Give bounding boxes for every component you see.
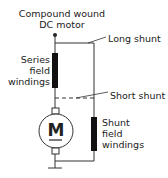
motor-symbol: M [47,121,65,139]
long-shunt-leader [88,37,106,43]
series-label-line-3: windings [8,76,50,87]
title-line-1: Compound wound [14,8,110,19]
shunt-label-line-1: Shunt [102,117,144,128]
long-shunt-label: Long shunt [108,33,161,44]
series-label-line-2: field [8,65,50,76]
shunt-label-line-2: field [102,128,144,139]
shunt-winding-label: Shunt field windings [102,117,144,150]
diagram-title: Compound wound DC motor [14,8,110,30]
series-winding-label: Series field windings [8,54,50,87]
short-shunt-label: Short shunt [110,90,165,101]
lower-brush [52,148,59,154]
shunt-winding [91,117,97,151]
shunt-label-line-3: windings [102,139,144,150]
short-shunt-leader [76,92,108,98]
title-line-2: DC motor [14,19,110,30]
series-winding [52,53,58,88]
upper-brush [52,108,59,114]
compound-motor-diagram: Compound wound DC motor Long shunt Short… [0,0,168,178]
series-label-line-1: Series [8,54,50,65]
